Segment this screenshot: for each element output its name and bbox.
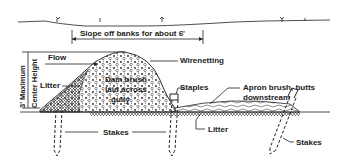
- bottom-litter-band: [90, 112, 300, 116]
- litter-label-bottom: Litter: [208, 125, 228, 134]
- flow-arrow: Flow: [45, 53, 98, 66]
- svg-text:laid across: laid across: [105, 85, 147, 94]
- svg-text:gully: gully: [111, 95, 130, 104]
- svg-text:Litter: Litter: [40, 81, 60, 90]
- apron-label-2: downstream: [243, 93, 290, 102]
- svg-text:Dam brush: Dam brush: [105, 75, 147, 84]
- svg-text:Flow: Flow: [48, 53, 67, 62]
- stakes-label-right: Stakes: [296, 138, 322, 147]
- slope-label: Slope off banks for about 6': [80, 29, 185, 38]
- apron-brush: [175, 101, 300, 112]
- svg-text:3' Maximum: 3' Maximum: [18, 65, 27, 108]
- wirenetting-label: Wirenetting: [180, 56, 224, 65]
- svg-text:Center Height: Center Height: [30, 58, 39, 108]
- slope-dimension: Slope off banks for about 6': [72, 29, 203, 44]
- ground-profile-top: [18, 17, 330, 26]
- apron-label-1: Apron brush, butts: [243, 83, 316, 92]
- staples-label: Staples: [180, 83, 209, 92]
- brush-dam-diagram: Slope off banks for about 6' 3' Maximum …: [0, 0, 352, 167]
- stakes-label-left: Stakes: [103, 128, 129, 137]
